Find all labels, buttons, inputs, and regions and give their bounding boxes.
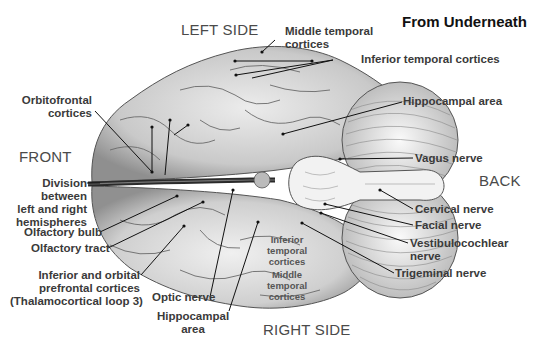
label-hippocampal-area-top: Hippocampal area	[403, 95, 502, 108]
label-optic-nerve: Optic nerve	[152, 291, 215, 304]
label-vestibulocochlear-nerve: Vestibulocochlear nerve	[410, 237, 508, 263]
label-hippocampal-area-bottom: Hippocampal area	[155, 310, 231, 336]
label-olfactory-bulb: Olfactory bulb	[24, 226, 102, 239]
direction-left-side: LEFT SIDE	[181, 21, 258, 38]
label-olfactory-tract: Olfactory tract	[31, 242, 110, 255]
label-inferior-temporal-cortices-inner: Inferior temporal cortices	[262, 234, 312, 267]
label-cervical-nerve: Cervical nerve	[415, 203, 494, 216]
label-inferior-orbital-prefrontal-cortices: Inferior and orbital prefrontal cortices…	[10, 269, 140, 308]
direction-front: FRONT	[19, 148, 72, 165]
label-vagus-nerve: Vagus nerve	[415, 152, 483, 165]
direction-right-side: RIGHT SIDE	[263, 321, 351, 338]
label-orbitofrontal-cortices: Orbitofrontal cortices	[20, 94, 92, 120]
label-division-between-hemispheres: Division between left and right hemisphe…	[10, 177, 87, 229]
direction-back: BACK	[479, 172, 521, 189]
diagram-title: From Underneath	[402, 13, 527, 30]
label-inferior-temporal-cortices-top: Inferior temporal cortices	[361, 53, 500, 66]
label-facial-nerve: Facial nerve	[415, 219, 481, 232]
label-trigeminal-nerve: Trigeminal nerve	[395, 267, 486, 280]
label-middle-temporal-cortices-inner: Middle temporal cortices	[262, 269, 312, 302]
brain-diagram: From Underneath LEFT SIDE RIGHT SIDE FRO…	[0, 0, 538, 351]
label-middle-temporal-cortices-top: Middle temporal cortices	[285, 25, 373, 51]
